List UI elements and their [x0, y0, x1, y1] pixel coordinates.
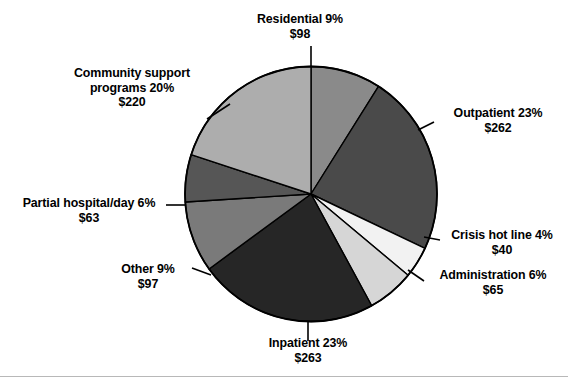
pie-label-community-support: Community support programs 20% $220 [52, 66, 212, 110]
pie-label-crisis-hot-line: Crisis hot line 4% $40 [438, 228, 566, 257]
pie-label-community-line2: programs 20% [52, 81, 212, 96]
pie-label-crisis-line1: Crisis hot line 4% [438, 228, 566, 243]
pie-label-inpatient-line2: $263 [238, 351, 378, 366]
pie-chart-page: Residential 9% $98Outpatient 23% $262Cri… [0, 0, 568, 387]
pie-slice-group: Residential 9% $98Outpatient 23% $262Cri… [185, 67, 437, 322]
pie-label-inpatient-line1: Inpatient 23% [238, 336, 378, 351]
pie-chart-graphic: Residential 9% $98Outpatient 23% $262Cri… [0, 0, 568, 387]
pie-label-inpatient: Inpatient 23% $263 [238, 336, 378, 365]
pie-label-residential-line1: Residential 9% [232, 12, 368, 27]
pie-label-partial-hospital-day: Partial hospital/day 6% $63 [6, 196, 172, 225]
pie-label-other: Other 9% $97 [96, 262, 200, 291]
pie-label-partial-line2: $63 [6, 211, 172, 226]
pie-label-outpatient-line2: $262 [432, 121, 564, 136]
pie-label-residential: Residential 9% $98 [232, 12, 368, 41]
pie-label-administration: Administration 6% $65 [422, 268, 564, 297]
pie-label-community-line1: Community support [52, 66, 212, 81]
pie-label-other-line2: $97 [96, 277, 200, 292]
pie-label-outpatient-line1: Outpatient 23% [432, 106, 564, 121]
pie-label-administration-line1: Administration 6% [422, 268, 564, 283]
pie-label-administration-line2: $65 [422, 283, 564, 298]
pie-label-residential-line2: $98 [232, 27, 368, 42]
pie-label-outpatient: Outpatient 23% $262 [432, 106, 564, 135]
bottom-divider [0, 376, 568, 377]
pie-label-partial-line1: Partial hospital/day 6% [6, 196, 172, 211]
pie-label-other-line1: Other 9% [96, 262, 200, 277]
pie-label-community-line3: $220 [52, 95, 212, 110]
pie-label-crisis-line2: $40 [438, 243, 566, 258]
